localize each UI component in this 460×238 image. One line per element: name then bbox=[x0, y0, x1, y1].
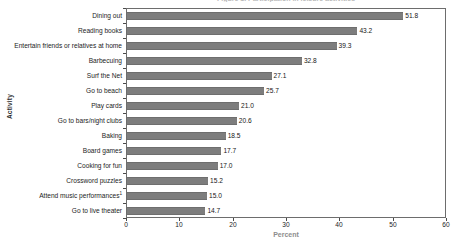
bar-value-label: 43.2 bbox=[359, 26, 372, 36]
y-axis-category-label: Attend music performances1 bbox=[39, 188, 122, 203]
y-axis-tick bbox=[123, 38, 126, 39]
bar bbox=[127, 102, 239, 110]
bar bbox=[127, 72, 272, 80]
y-axis-category-label: Go to live theater bbox=[72, 203, 122, 218]
x-axis-tick-label: 40 bbox=[327, 221, 351, 228]
y-axis-tick bbox=[123, 143, 126, 144]
y-axis-tick bbox=[123, 23, 126, 24]
y-axis-tick bbox=[123, 203, 126, 204]
bar bbox=[127, 192, 207, 200]
bar-value-label: 15.2 bbox=[210, 176, 223, 186]
bar-value-label: 15.0 bbox=[209, 191, 222, 201]
y-axis-category-label: Dining out bbox=[92, 8, 122, 23]
bar bbox=[127, 57, 302, 65]
bar-value-label: 17.7 bbox=[223, 146, 236, 156]
chart-title: Figure 1. Participation in leisure activ… bbox=[126, 0, 446, 2]
x-axis-tick-label: 0 bbox=[114, 221, 138, 228]
y-axis-tick bbox=[123, 53, 126, 54]
y-axis-category-label: Cooking for fun bbox=[77, 158, 122, 173]
bar-value-label: 27.1 bbox=[274, 71, 287, 81]
bar bbox=[127, 12, 403, 20]
bar-value-label: 21.0 bbox=[241, 101, 254, 111]
bar bbox=[127, 162, 218, 170]
y-axis-category-label: Barbecuing bbox=[89, 53, 122, 68]
bar bbox=[127, 27, 357, 35]
bar-value-label: 39.3 bbox=[339, 41, 352, 51]
x-axis-tick-label: 30 bbox=[274, 221, 298, 228]
bar bbox=[127, 117, 237, 125]
y-axis-category-label: Baking bbox=[102, 128, 122, 143]
bar-value-label: 20.6 bbox=[239, 116, 252, 126]
bar-value-label: 32.8 bbox=[304, 56, 317, 66]
y-axis-category-label: Entertain friends or relatives at home bbox=[14, 38, 122, 53]
chart-screenshot: Figure 1. Participation in leisure activ… bbox=[0, 0, 460, 238]
y-axis-category-label: Reading books bbox=[78, 23, 122, 38]
y-axis-category-label: Go to beach bbox=[86, 83, 122, 98]
bar-value-label: 18.5 bbox=[228, 131, 241, 141]
y-axis-tick bbox=[123, 113, 126, 114]
y-axis-tick bbox=[123, 83, 126, 84]
plot-area bbox=[126, 8, 446, 218]
bar-value-label: 25.7 bbox=[266, 86, 279, 96]
category-footnote-marker: 1 bbox=[119, 191, 122, 196]
bar-value-label: 14.7 bbox=[207, 206, 220, 216]
bar bbox=[127, 42, 337, 50]
y-axis-tick bbox=[123, 8, 126, 9]
bar bbox=[127, 207, 205, 215]
y-axis-category-label: Surf the Net bbox=[87, 68, 122, 83]
y-axis-title: Activity bbox=[6, 77, 13, 137]
x-axis-tick-label: 50 bbox=[381, 221, 405, 228]
y-axis-category-label: Board games bbox=[83, 143, 122, 158]
y-axis-category-label: Play cards bbox=[91, 98, 122, 113]
bar bbox=[127, 87, 264, 95]
bar-value-label: 17.0 bbox=[220, 161, 233, 171]
x-axis-tick-label: 10 bbox=[167, 221, 191, 228]
y-axis-tick bbox=[123, 128, 126, 129]
x-axis-tick-label: 20 bbox=[221, 221, 245, 228]
bar bbox=[127, 177, 208, 185]
y-axis-tick bbox=[123, 68, 126, 69]
y-axis-tick bbox=[123, 158, 126, 159]
y-axis-category-label: Crossword puzzles bbox=[66, 173, 122, 188]
bar bbox=[127, 147, 221, 155]
x-axis-title: Percent bbox=[126, 231, 446, 238]
bar-value-label: 51.8 bbox=[405, 11, 418, 21]
y-axis-tick bbox=[123, 98, 126, 99]
bar bbox=[127, 132, 226, 140]
y-axis-tick bbox=[123, 173, 126, 174]
x-axis-tick-label: 60 bbox=[434, 221, 458, 228]
y-axis-tick bbox=[123, 188, 126, 189]
y-axis-category-label: Go to bars/night clubs bbox=[58, 113, 122, 128]
